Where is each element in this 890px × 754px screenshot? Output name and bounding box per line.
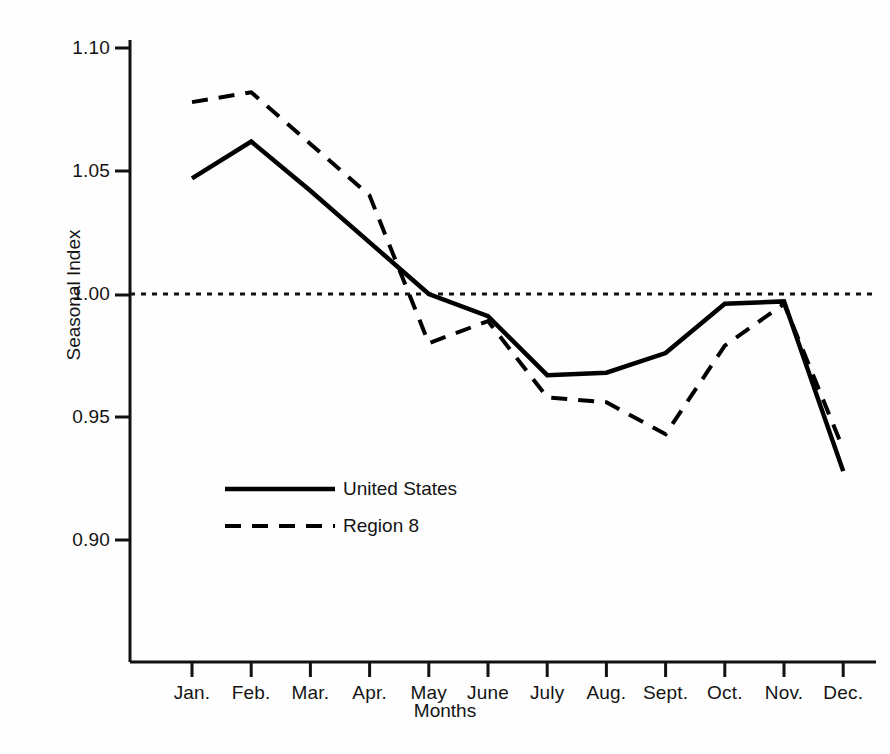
legend-label-region-8: Region 8 xyxy=(343,515,419,537)
y-tick-label: 1.10 xyxy=(40,37,110,59)
x-tick-label: July xyxy=(530,682,565,704)
x-tick-label: June xyxy=(467,682,509,704)
seasonal-index-line-chart: Seasonal Index Months 1.101.051.000.950.… xyxy=(0,0,890,754)
y-tick-marks xyxy=(115,48,130,540)
x-tick-label: Oct. xyxy=(707,682,743,704)
x-tick-label: Aug. xyxy=(586,682,626,704)
x-tick-label: Feb. xyxy=(232,682,271,704)
series-line-united-states xyxy=(192,141,843,471)
x-tick-label: Nov. xyxy=(765,682,803,704)
x-tick-label: Dec. xyxy=(823,682,863,704)
plot-area xyxy=(0,0,890,754)
x-tick-label: Mar. xyxy=(292,682,330,704)
series-line-region-8 xyxy=(192,92,843,449)
y-tick-label: 0.95 xyxy=(40,406,110,428)
x-tick-label: Sept. xyxy=(643,682,688,704)
x-tick-label: Jan. xyxy=(174,682,211,704)
y-tick-label: 1.00 xyxy=(40,283,110,305)
legend-label-united-states: United States xyxy=(343,478,457,500)
x-tick-label: Apr. xyxy=(352,682,387,704)
x-tick-marks xyxy=(192,662,843,677)
x-tick-label: May xyxy=(411,682,448,704)
y-tick-label: 1.05 xyxy=(40,160,110,182)
y-tick-label: 0.90 xyxy=(40,529,110,551)
